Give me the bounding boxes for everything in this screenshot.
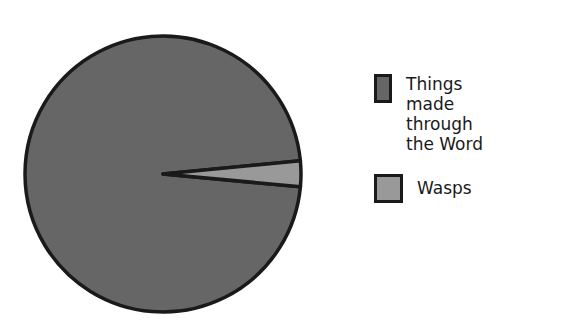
legend-label-things-made: Things made through the Word [406,74,484,154]
legend-swatch-things-made [374,74,392,103]
pie-chart [0,0,574,334]
pie-slices [25,36,301,312]
legend-item-wasps: Wasps [374,174,472,203]
legend-swatch-wasps [374,174,403,203]
legend-item-things-made: Things made through the Word [374,74,484,154]
legend-label-wasps: Wasps [417,178,472,198]
